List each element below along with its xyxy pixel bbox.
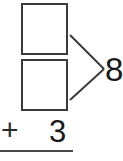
plus-operator: + [1,115,19,145]
brace-upper-line [70,35,104,69]
brace-lower-line [70,69,104,100]
math-worksheet-problem: 8 + 3 [0,0,123,161]
bottom-answer-box[interactable] [21,59,68,111]
sum-line [0,150,73,152]
addend-digit: 3 [49,116,66,147]
sum-target-digit: 8 [105,53,123,86]
top-answer-box[interactable] [21,3,68,55]
